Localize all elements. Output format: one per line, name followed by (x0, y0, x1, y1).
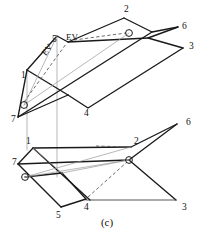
lower-edge-1-2 (33, 147, 131, 148)
lower-aux-line-c (33, 148, 62, 173)
lower-edge-6-2-7 (18, 124, 177, 164)
lower-edge-2-3 (129, 160, 176, 200)
upper-edge-7-6-long (18, 32, 152, 117)
lower-edge-5-4 (61, 199, 86, 207)
upper-vertex-label-4: 4 (84, 108, 89, 118)
figure-container: 2 6 3 5 1 7 4 EV EV (0, 0, 207, 232)
lower-vertex-label-2: 2 (134, 136, 139, 146)
upper-edge-1-4 (27, 70, 68, 95)
upper-vertex-label-2: 2 (124, 4, 129, 14)
lower-hidden-line-b (88, 162, 127, 197)
lower-edge-7-5 (18, 164, 61, 207)
lower-vertex-label-1: 1 (26, 136, 31, 146)
lower-vertex-label-7: 7 (12, 157, 17, 167)
upper-edge-3-4 (68, 48, 183, 108)
geometry-drawing: 2 6 3 5 1 7 4 EV EV (0, 0, 207, 232)
upper-vertex-label-3: 3 (189, 41, 194, 51)
upper-aux-line-b (24, 33, 129, 105)
lower-vertex-label-3: 3 (182, 202, 187, 212)
upper-vertex-label-7: 7 (11, 114, 16, 124)
upper-edge-2-5-1 (27, 18, 124, 70)
lower-vertex-label-5: 5 (56, 210, 61, 220)
ev-annotation-horizontal: EV (66, 32, 78, 42)
figure-caption: (c) (101, 216, 114, 229)
upper-vertex-label-5: 5 (52, 34, 57, 44)
upper-edge-6-3 (148, 27, 183, 48)
upper-vertex-label-6: 6 (182, 21, 187, 31)
upper-view-group: 2 6 3 5 1 7 4 EV EV (11, 4, 194, 124)
lower-vertex-label-4: 4 (84, 202, 89, 212)
lower-view-group: 6 2 1 7 5 4 3 (12, 117, 191, 220)
upper-vertex-label-1: 1 (21, 70, 26, 80)
lower-vertex-label-6: 6 (186, 117, 191, 127)
upper-edge-4-7 (18, 95, 68, 117)
lower-edge-7-1 (18, 148, 33, 164)
